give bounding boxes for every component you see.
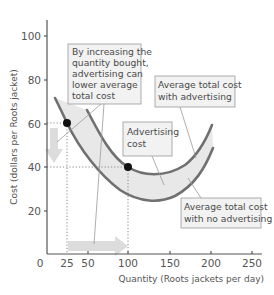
x-axis-label: Quantity (Roots jackets per day) [118,274,264,284]
svg-text:total cost: total cost [72,90,115,101]
annotation-lower-cost: By increasing the quantity bought, adver… [68,44,152,104]
annotation-no-advertising: Average total cost with no advertising [181,198,272,228]
svg-text:Average total cost: Average total cost [184,201,268,212]
x-tick-50: 50 [81,257,94,269]
svg-text:quantity bought,: quantity bought, [72,57,149,68]
y-axis-label: Cost (dollars per Roots jacket) [9,69,19,205]
svg-text:Advertising: Advertising [127,126,179,137]
point-with-advertising [124,163,132,171]
origin-label: 0 [37,257,44,269]
svg-text:with no advertising: with no advertising [184,213,272,224]
point-no-advertising [63,119,71,127]
x-tick-250: 250 [242,257,262,269]
svg-text:By increasing the: By increasing the [72,46,152,57]
svg-text:with advertising: with advertising [158,91,232,102]
x-tick-25: 25 [60,257,73,269]
y-tick-40: 40 [28,161,41,173]
x-tick-100: 100 [118,257,138,269]
svg-text:advertising can: advertising can [72,68,143,79]
down-arrow-icon [45,128,63,163]
y-tick-100: 100 [21,30,41,42]
x-tick-150: 150 [160,257,180,269]
cost-chart: 100 80 60 40 20 0 25 50 100 150 200 250 … [0,0,274,295]
right-arrow-icon [68,236,128,256]
svg-text:Average total cost: Average total cost [158,79,242,90]
svg-text:lower average: lower average [72,79,138,90]
y-tick-20: 20 [28,205,41,217]
y-tick-80: 80 [28,74,41,86]
svg-text:cost: cost [127,138,146,149]
annotation-with-advertising: Average total cost with advertising [155,76,242,107]
x-tick-200: 200 [201,257,221,269]
annotation-advertising-cost: Advertising cost [123,122,179,156]
y-tick-60: 60 [28,118,41,130]
